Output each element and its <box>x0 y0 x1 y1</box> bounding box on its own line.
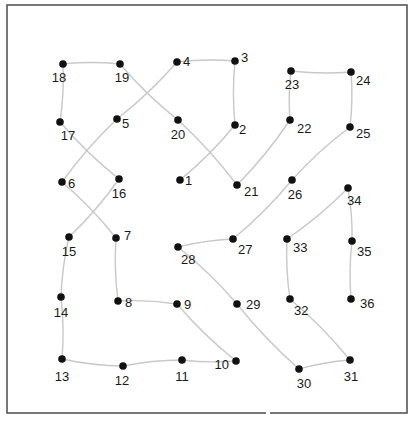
dot-24 <box>347 68 355 76</box>
dot-label-2: 2 <box>239 122 246 137</box>
dot-label-4: 4 <box>183 54 190 69</box>
dot-label-35: 35 <box>357 244 371 259</box>
dot-label-13: 13 <box>55 369 69 384</box>
dot-17 <box>56 118 64 126</box>
connector-line <box>287 239 290 299</box>
dot-26 <box>288 176 296 184</box>
puzzle-frame <box>7 5 407 413</box>
connector-line <box>350 241 352 299</box>
dot-label-28: 28 <box>181 252 195 267</box>
dots-layer <box>56 57 356 373</box>
dot-label-29: 29 <box>246 297 260 312</box>
dot-22 <box>286 116 294 124</box>
connector-line <box>115 238 118 301</box>
dot-label-22: 22 <box>297 121 311 136</box>
dot-18 <box>59 60 67 68</box>
connector-line <box>237 304 299 369</box>
dot-3 <box>231 57 239 65</box>
number-labels: 1234567891011121314151617181920212223242… <box>52 50 375 391</box>
dot-19 <box>116 60 124 68</box>
dot-label-15: 15 <box>62 244 76 259</box>
frame-gap <box>266 410 270 416</box>
dot-20 <box>174 116 182 124</box>
dot-6 <box>58 178 66 186</box>
dot-label-11: 11 <box>175 369 189 384</box>
dot-label-16: 16 <box>112 186 126 201</box>
dot-27 <box>229 235 237 243</box>
dot-label-27: 27 <box>238 242 252 257</box>
dot-label-1: 1 <box>185 173 192 188</box>
dot-label-6: 6 <box>68 176 75 191</box>
dot-label-3: 3 <box>241 50 248 65</box>
connector-line <box>123 360 182 366</box>
dot-31 <box>346 356 354 364</box>
dot-10 <box>232 357 240 365</box>
connector-line <box>350 72 352 127</box>
dot-14 <box>57 293 65 301</box>
dot-15 <box>65 233 73 241</box>
dot-label-17: 17 <box>61 128 75 143</box>
dot-25 <box>346 123 354 131</box>
dot-label-31: 31 <box>344 369 358 384</box>
dot-to-dot-puzzle: 1234567891011121314151617181920212223242… <box>0 0 410 421</box>
dot-label-18: 18 <box>52 70 66 85</box>
dot-34 <box>344 184 352 192</box>
connector-line <box>62 359 123 366</box>
dot-1 <box>176 176 184 184</box>
dot-11 <box>178 356 186 364</box>
dot-16 <box>115 175 123 183</box>
dot-label-10: 10 <box>215 357 229 372</box>
connecting-lines <box>60 60 352 369</box>
dot-28 <box>174 243 182 251</box>
connector-line <box>233 61 235 125</box>
dot-30 <box>295 365 303 373</box>
dot-label-34: 34 <box>347 193 361 208</box>
dot-label-9: 9 <box>184 297 191 312</box>
dot-label-5: 5 <box>122 116 129 131</box>
dot-32 <box>286 295 294 303</box>
dot-label-7: 7 <box>124 228 131 243</box>
connector-line <box>177 304 236 361</box>
dot-7 <box>112 234 120 242</box>
dot-label-30: 30 <box>297 376 311 391</box>
dot-5 <box>113 115 121 123</box>
dot-label-19: 19 <box>115 70 129 85</box>
dot-label-25: 25 <box>356 126 370 141</box>
dot-label-8: 8 <box>125 295 132 310</box>
dot-label-32: 32 <box>294 303 308 318</box>
dot-label-20: 20 <box>171 127 185 142</box>
dot-29 <box>233 300 241 308</box>
dot-label-33: 33 <box>293 240 307 255</box>
dot-4 <box>173 58 181 66</box>
dot-2 <box>231 121 239 129</box>
dot-13 <box>58 355 66 363</box>
connector-line <box>63 63 120 64</box>
dot-36 <box>347 295 355 303</box>
dot-label-36: 36 <box>360 296 374 311</box>
dot-label-23: 23 <box>285 77 299 92</box>
connector-line <box>178 239 233 247</box>
dot-9 <box>173 300 181 308</box>
connector-line <box>233 180 292 239</box>
dot-21 <box>233 181 241 189</box>
dot-35 <box>348 237 356 245</box>
dot-label-12: 12 <box>115 373 129 388</box>
connector-line <box>291 71 351 73</box>
dot-23 <box>287 67 295 75</box>
dot-label-21: 21 <box>244 184 258 199</box>
dot-label-24: 24 <box>356 73 370 88</box>
dot-label-26: 26 <box>288 187 302 202</box>
dot-label-14: 14 <box>54 305 68 320</box>
dot-8 <box>114 297 122 305</box>
dot-33 <box>283 235 291 243</box>
dot-12 <box>119 362 127 370</box>
connector-line <box>299 360 350 369</box>
